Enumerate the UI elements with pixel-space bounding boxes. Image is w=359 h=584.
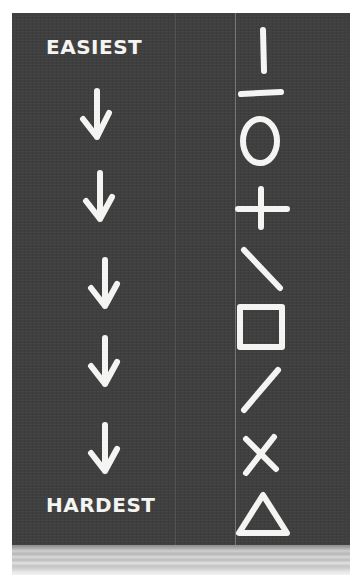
square-icon [237,303,292,358]
slash-icon [240,366,290,421]
chalk-tray [12,545,350,575]
hardest-label: HARDEST [46,493,155,517]
down-arrow-icon [80,173,120,223]
down-arrow-icon [77,91,117,141]
plus-icon [235,185,295,235]
chalkboard: EASIEST HARDEST [12,13,350,575]
down-arrow-icon [85,260,125,310]
vertical-line-icon [260,27,270,77]
backslash-icon [240,246,290,296]
x-icon [242,433,287,483]
down-arrow-icon [85,338,125,388]
horizontal-line-icon [239,88,289,100]
board-seam-line [175,13,176,575]
triangle-icon [235,491,295,541]
down-arrow-icon [85,425,125,475]
easiest-label: EASIEST [46,35,142,59]
circle-icon [238,113,288,173]
